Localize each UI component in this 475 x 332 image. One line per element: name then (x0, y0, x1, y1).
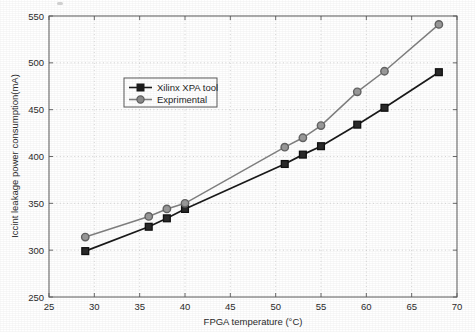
data-point-marker (354, 88, 361, 95)
x-tick-label: 60 (361, 301, 372, 312)
y-tick-label: 500 (28, 57, 44, 68)
x-axis-tick-labels: 25303540455055606570 (44, 301, 463, 312)
data-point-marker (281, 143, 288, 150)
data-point-marker (163, 205, 170, 212)
y-tick-label: 250 (28, 292, 44, 303)
x-axis-title: FPGA temperature (°C) (204, 316, 303, 327)
x-tick-label: 50 (270, 301, 281, 312)
data-point-marker (318, 143, 325, 150)
data-point-marker (181, 200, 188, 207)
scan-speck (57, 2, 63, 5)
x-tick-label: 30 (89, 301, 100, 312)
x-tick-label: 65 (406, 301, 417, 312)
data-point-marker (163, 215, 170, 222)
y-tick-label: 450 (28, 104, 44, 115)
y-tick-label: 550 (28, 11, 44, 22)
legend-label-xilinx-xpa-tool: Xilinx XPA tool (157, 82, 218, 93)
line-chart: 25303540455055606570 2503003504004505005… (0, 0, 475, 332)
y-tick-label: 300 (28, 245, 44, 256)
y-tick-label: 400 (28, 151, 44, 162)
x-tick-label: 25 (44, 301, 55, 312)
data-point-marker (281, 161, 288, 168)
x-tick-label: 70 (452, 301, 463, 312)
y-axis-title: Iccint leakage power consumption(mA) (9, 74, 20, 238)
data-point-marker (145, 223, 152, 230)
data-point-marker (435, 21, 442, 28)
x-tick-label: 55 (316, 301, 327, 312)
legend-label-exprimental: Exprimental (157, 94, 207, 105)
data-point-marker (82, 233, 89, 240)
data-point-marker (381, 68, 388, 75)
data-point-marker (82, 248, 89, 255)
circle-marker-icon (137, 96, 144, 103)
data-point-marker (299, 134, 306, 141)
data-point-marker (381, 104, 388, 111)
data-point-marker (435, 69, 442, 76)
data-point-marker (299, 151, 306, 158)
data-point-marker (145, 213, 152, 220)
x-tick-label: 45 (225, 301, 236, 312)
data-point-marker (317, 122, 324, 129)
data-point-marker (354, 121, 361, 128)
y-axis-tick-labels: 250300350400450500550 (28, 11, 44, 303)
chart-legend[interactable]: Xilinx XPA tool Exprimental (124, 78, 218, 107)
x-tick-label: 40 (180, 301, 191, 312)
figure-canvas: 25303540455055606570 2503003504004505005… (0, 0, 475, 332)
y-tick-label: 350 (28, 198, 44, 209)
square-marker-icon (137, 84, 144, 91)
x-tick-label: 35 (134, 301, 145, 312)
